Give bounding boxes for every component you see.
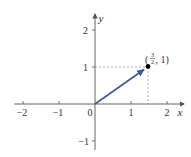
x-tick-label: 1 <box>129 107 134 118</box>
vector-diagram: −2 −1 0 1 2 2 1 −1 x y ( 3 2 , 1) <box>0 0 191 157</box>
y-tick-label: 1 <box>83 62 88 73</box>
x-tick-label: 2 <box>165 107 170 118</box>
x-axis-label: x <box>177 106 183 118</box>
y-tick-label: 2 <box>83 25 88 36</box>
fraction-numerator: 3 <box>151 52 154 58</box>
vector-arrow <box>95 70 144 105</box>
diagram-canvas: −2 −1 0 1 2 2 1 −1 x y ( 3 2 , 1) <box>0 0 191 157</box>
svg-text:, 1): , 1) <box>156 54 169 66</box>
y-tick-label: −1 <box>78 136 89 147</box>
point-label: ( 3 2 , 1) <box>145 52 169 66</box>
x-tick-label: −1 <box>53 107 64 118</box>
x-tick-label: −2 <box>17 107 28 118</box>
x-tick-label: 0 <box>88 107 93 118</box>
y-axis-label: y <box>98 12 104 24</box>
fraction-denominator: 2 <box>151 59 154 65</box>
